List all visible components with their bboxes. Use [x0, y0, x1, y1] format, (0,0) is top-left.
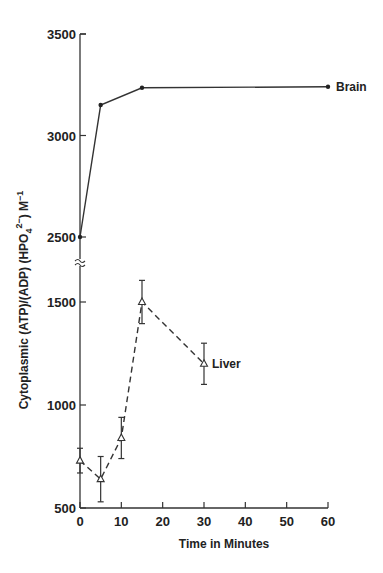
y-title-part: −1	[15, 191, 25, 201]
series-liver: Liver	[77, 280, 242, 501]
y-title-part: M	[17, 201, 31, 214]
data-point-triangle-icon	[139, 298, 146, 305]
y-title-part: 2−	[14, 218, 24, 228]
data-point-circle-icon	[140, 86, 144, 90]
series-line	[80, 87, 328, 237]
y-tick-label: 3500	[47, 27, 76, 42]
y-tick-label: 2500	[47, 230, 76, 245]
series-label-liver: Liver	[212, 357, 241, 371]
axis-break-icon	[75, 260, 85, 267]
x-tick-label: 0	[76, 514, 83, 529]
x-tick-label: 60	[321, 514, 335, 529]
series-brain: Brain	[78, 80, 367, 239]
data-point-circle-icon	[78, 235, 82, 239]
y-axis-title: Cytoplasmic (ATP)/(ADP) (HPO42−) M−1	[14, 191, 34, 410]
y-title-part: Cytoplasmic (ATP)/(ADP) (HPO	[17, 234, 31, 410]
data-point-triangle-icon	[77, 457, 84, 464]
series-layer: BrainLiver	[77, 80, 367, 502]
x-tick-label: 40	[238, 514, 252, 529]
y-tick-label: 1500	[47, 295, 76, 310]
data-point-circle-icon	[98, 103, 102, 107]
y-tick-label: 500	[54, 501, 76, 516]
x-tick-label: 30	[197, 514, 211, 529]
data-point-circle-icon	[326, 85, 330, 89]
y-tick-label: 1000	[47, 398, 76, 413]
series-label-brain: Brain	[336, 80, 367, 94]
y-title-part: 4	[24, 229, 34, 234]
series-line	[80, 302, 204, 479]
x-tick-label: 20	[155, 514, 169, 529]
data-point-triangle-icon	[118, 434, 125, 441]
axes: 250030003500500100015000102030405060	[47, 27, 335, 529]
chart: 250030003500500100015000102030405060 Bra…	[0, 0, 383, 573]
x-tick-label: 10	[114, 514, 128, 529]
x-axis-title: Time in Minutes	[179, 537, 270, 551]
x-tick-label: 50	[279, 514, 293, 529]
y-tick-label: 3000	[47, 129, 76, 144]
